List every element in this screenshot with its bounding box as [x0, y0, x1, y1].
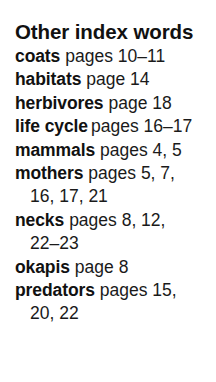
index-term: coats — [15, 46, 60, 66]
index-term: necks — [15, 210, 64, 230]
index-pages: pages 10–11 — [65, 46, 165, 66]
index-term: mammals — [15, 140, 95, 160]
index-entry-habitats: habitatspage 14 — [15, 68, 215, 91]
index-term: mothers — [15, 163, 83, 183]
index-entry-mammals: mammalspages 4, 5 — [15, 139, 215, 162]
index-pages-continuation: 20, 22 — [15, 302, 215, 325]
index-entry-life-cycle: life cyclepages 16–17 — [15, 115, 215, 138]
index-term: okapis — [15, 257, 70, 277]
index-term: herbivores — [15, 93, 103, 113]
index-pages: pages 16–17 — [91, 116, 192, 136]
index-pages: pages 8, 12, — [69, 210, 165, 230]
index-term: habitats — [15, 69, 81, 89]
index-entry-mothers: motherspages 5, 7, — [15, 162, 215, 185]
index-entry-herbivores: herbivorespage 18 — [15, 92, 215, 115]
index-pages: pages 5, 7, — [88, 163, 175, 183]
index-pages-continuation: 22–23 — [15, 232, 215, 255]
index-term: predators — [15, 280, 95, 300]
index-entry-coats: coatspages 10–11 — [15, 45, 215, 68]
index-title: Other index words — [15, 20, 215, 44]
index-entry-predators: predatorspages 15, — [15, 279, 215, 302]
index-entry-okapis: okapispage 8 — [15, 256, 215, 279]
index-pages: page 14 — [86, 69, 149, 89]
index-entry-necks: neckspages 8, 12, — [15, 209, 215, 232]
index-pages: pages 4, 5 — [100, 140, 182, 160]
index-page: Other index words coatspages 10–11 habit… — [15, 20, 215, 326]
index-pages: pages 15, — [100, 280, 177, 300]
index-pages: page 18 — [108, 93, 171, 113]
index-pages-continuation: 16, 17, 21 — [15, 185, 215, 208]
index-pages: page 8 — [75, 257, 129, 277]
index-term: life cycle — [15, 116, 88, 136]
